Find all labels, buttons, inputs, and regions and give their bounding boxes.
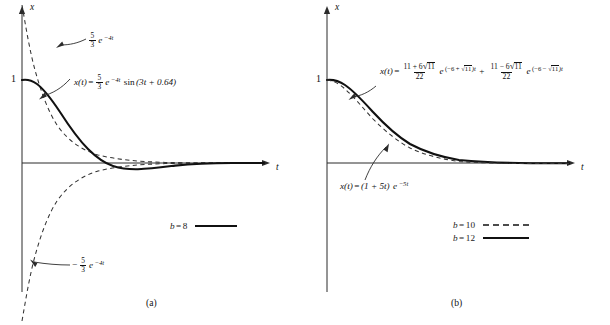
term1-den: 22 (414, 72, 425, 81)
term1-num-radicand: 11 (427, 62, 435, 71)
trig-argument: (3t + 0.64) (136, 78, 176, 87)
minus-sign: − (72, 261, 77, 270)
curve-lower-envelope (22, 163, 264, 321)
legend-swatch-dashed (483, 222, 529, 228)
fraction-five-thirds: 5 3 (80, 257, 87, 274)
panel-b-y-axis (324, 6, 330, 292)
curve-solution-b8 (22, 80, 264, 170)
leader-solution-overdamped (352, 86, 376, 97)
legend-var: b (453, 220, 458, 230)
sqrt-icon: √11 (510, 62, 523, 72)
term1-num-a: 11 + 6 (403, 62, 422, 71)
legend-value: 10 (466, 220, 475, 230)
legend-panel-a: b = 8 (170, 221, 237, 231)
panel-a: x t 1 5 3 e−4t x(t) = 5 3 e−4t sin (0, 0, 305, 325)
term2-exp-base: e (526, 67, 530, 76)
exp-base: e (98, 36, 102, 45)
panel-a-caption: (a) (146, 298, 157, 308)
term2-num-radicand: 11 (514, 62, 522, 71)
annotation-solution-b8: x(t) = 5 3 e−4t sin (3t + 0.64) (74, 74, 176, 91)
leader-upper-envelope (60, 39, 86, 45)
figure-container: x t 1 5 3 e−4t x(t) = 5 3 e−4t sin (0, 0, 610, 325)
term2-num-a: 11 − 6 (490, 62, 509, 71)
panel-a-y-axis-label: x (30, 3, 34, 13)
curve-solution-b12 (327, 80, 569, 163)
solution-lhs: x(t) (380, 67, 393, 76)
legend-var: b (453, 233, 458, 243)
solution-equals: = (394, 67, 399, 76)
annotation-lower-envelope: − 5 3 e−4t (72, 257, 104, 274)
panel-b: x t 1 x(t) = 11 + 6√11 22 e(−6 + √11)t +… (305, 0, 610, 325)
panel-b-x-axis-label: t (581, 163, 584, 173)
annotation-solution-overdamped: x(t) = 11 + 6√11 22 e(−6 + √11)t + 11 − … (380, 62, 563, 81)
fraction-five-thirds: 5 3 (96, 74, 103, 91)
exp-base: e (89, 261, 93, 270)
legend-equals: = (459, 233, 464, 243)
term2-exp-radicand: 11 (551, 65, 558, 73)
sqrt-icon: √11 (461, 65, 471, 73)
legend-value: 8 (183, 221, 188, 231)
legend-item-b12: b = 12 (453, 233, 475, 243)
fraction-term2: 11 − 6√11 22 (489, 62, 524, 81)
term1-exp-radicand: 11 (464, 65, 471, 73)
panel-a-y-tick-1: 1 (11, 74, 16, 84)
term2-den: 22 (501, 72, 512, 81)
legend-panel-b-row-1: b = 10 (453, 220, 529, 230)
sqrt-icon: √11 (548, 65, 558, 73)
term2-exp-pre: (−6 − (532, 65, 548, 72)
panel-b-y-tick-1: 1 (316, 74, 321, 84)
legend-equals: = (459, 220, 464, 230)
panel-b-y-axis-label: x (335, 3, 339, 13)
plus-sign: + (479, 67, 484, 76)
term1-exp-pre: (−6 + (445, 65, 461, 72)
critical-polynomial: (1 + 5t) (361, 182, 390, 191)
annotation-upper-envelope: 5 3 e−4t (88, 32, 113, 49)
fraction-term1: 11 + 6√11 22 (402, 62, 437, 81)
panel-a-y-axis (19, 6, 25, 292)
solution-equals: = (88, 78, 93, 87)
critical-equals: = (354, 182, 359, 191)
legend-panel-b-row-2: b = 12 (453, 233, 529, 243)
legend-equals: = (176, 221, 181, 231)
panel-b-plot (305, 0, 610, 325)
panel-a-plot (0, 0, 305, 325)
critical-lhs: x(t) (340, 182, 353, 191)
panel-a-x-axis-label: t (276, 163, 279, 173)
panel-b-caption: (b) (451, 298, 462, 308)
fraction-five-thirds: 5 3 (89, 32, 96, 49)
legend-var: b (170, 221, 175, 231)
legend-swatch-solid (195, 223, 237, 229)
annotation-solution-critical: x(t) = (1 + 5t)e−5t (340, 182, 408, 191)
sqrt-icon: √11 (423, 62, 436, 72)
term2-exp-post: )t (559, 65, 563, 72)
term1-exp-base: e (439, 67, 443, 76)
legend-item-b10: b = 10 (453, 220, 475, 230)
exp-base: e (105, 78, 109, 87)
critical-exp-base: e (393, 182, 397, 191)
trig-name: sin (124, 78, 135, 87)
legend-value: 12 (466, 233, 475, 243)
solution-lhs: x(t) (74, 78, 87, 87)
leader-lower-envelope (34, 262, 70, 265)
term1-exp-post: )t (472, 65, 476, 72)
curve-solution-b10 (327, 80, 569, 164)
legend-item-b8: b = 8 (170, 221, 187, 231)
legend-swatch-solid (483, 235, 529, 241)
